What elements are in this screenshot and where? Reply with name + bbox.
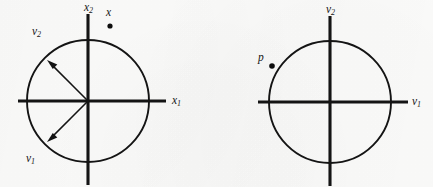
left-vector-v1-shaft [50,101,88,139]
left-point-x-dot [107,23,112,28]
left-point-x-label: x [105,6,112,18]
left-panel: x1 x2 x v2 v1 [18,1,181,185]
figure-container: x1 x2 x v2 v1 v1 v2 [0,0,433,187]
right-point-p-dot [269,63,275,69]
left-x1-axis-label: x1 [171,94,181,108]
right-v2-axis-label: v2 [326,3,335,17]
right-panel: v1 v2 p [257,3,421,186]
left-vector-v1-label: v1 [26,152,35,166]
left-vector-v2-shaft [50,63,88,101]
left-vector-v2 [47,60,88,101]
right-point-p-label: p [257,51,264,64]
right-v1-axis-label: v1 [412,95,421,109]
left-x2-axis-label: x2 [83,1,93,15]
left-vector-v2-label: v2 [32,25,41,39]
vector-figure-svg: x1 x2 x v2 v1 v1 v2 [0,0,433,187]
left-vector-v1 [47,101,88,142]
